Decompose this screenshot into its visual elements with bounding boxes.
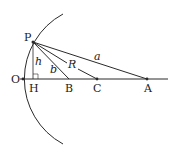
point-a [146, 78, 149, 81]
label-p: P [24, 31, 32, 44]
label-segment-r: R [67, 58, 76, 71]
label-segment-b: b [50, 63, 57, 76]
label-segment-a: a [94, 50, 101, 63]
label-a: A [143, 82, 153, 95]
label-c: C [93, 82, 101, 95]
label-o: O [11, 73, 20, 86]
label-b: B [65, 82, 73, 95]
label-h: H [29, 82, 39, 95]
point-c [96, 78, 99, 81]
geometry-diagram: P O H B C A a R b h [0, 0, 180, 152]
right-angle-marker [33, 74, 38, 79]
point-o [22, 78, 25, 81]
point-p [32, 41, 35, 44]
segment-pc-part2 [78, 69, 97, 79]
label-segment-h: h [35, 55, 42, 68]
